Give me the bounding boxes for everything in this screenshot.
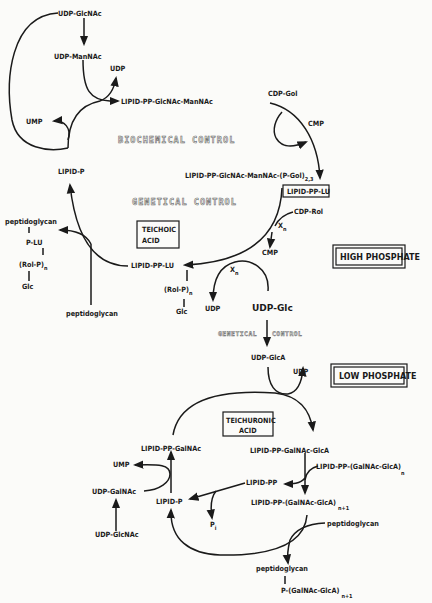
label-product-peptidoglycan-lower: peptidoglycan: [256, 564, 308, 573]
label-lipid-pp-lu: LIPID-PP-LU: [131, 261, 174, 270]
label-cdp-gol: CDP-Gol: [268, 89, 297, 98]
label-lipid-pp-lu-boxed: LIPID-PP-LU: [287, 187, 330, 196]
label-udp-1: UDP: [110, 64, 126, 73]
label-peptidoglycan-in: peptidoglycan: [66, 309, 118, 318]
arrow-lipid-pp-out: [285, 478, 305, 484]
label-ump: UMP: [26, 117, 43, 126]
label-teichuronic-2: ACID: [239, 426, 257, 435]
label-lipid-pp-glcnac-mannac: LIPID-PP-GlcNAc-ManNAc: [121, 97, 213, 106]
label-udp-lower: UDP: [293, 367, 309, 376]
label-glc: Glc: [176, 307, 188, 316]
label-udp-glca: UDP-GlcA: [251, 353, 285, 362]
label-biochemical-control: BIOCHEMICAL CONTROL: [118, 135, 235, 145]
label-control-right: CONTROL: [272, 330, 302, 338]
label-lipid-pp-polymer-n1: LIPID-PP-(GalNAc-GlcA)n+1: [251, 498, 350, 511]
label-cmp-1: CMP: [308, 119, 324, 128]
label-lipid-pp-galnac-glca: LIPID-PP-GalNAc-GlcA: [250, 446, 329, 455]
label-high-phosphate: HIGH PHOSPHATE: [340, 253, 420, 262]
label-udp-galnac: UDP-GalNAc: [92, 487, 136, 496]
label-teichuronic-1: TEICHURONIC: [226, 416, 276, 425]
label-product-glc: Glc: [22, 282, 34, 291]
arrow-udp-out: [100, 78, 116, 101]
arrow-udp-galnac-in: [144, 474, 170, 491]
label-low-phosphate: LOW PHOSPHATE: [339, 372, 416, 381]
label-lipid-pp: LIPID-PP: [246, 478, 278, 487]
diagram-canvas: UDP-GlcNAc UDP-ManNAc UDP LIPID-PP-GlcNA…: [0, 0, 432, 603]
label-cdp-rol: CDP-Rol: [294, 207, 323, 216]
arrow-ump-out-lower: [135, 465, 170, 474]
label-teichoic-1: TEICHOIC: [142, 225, 176, 234]
label-peptidoglycan-in-lower: peptidoglycan: [327, 519, 379, 528]
label-udp-mannac: UDP-ManNAc: [54, 52, 102, 61]
label-product-rol-p: (Rol-P)n: [19, 260, 48, 271]
label-lipid-pp-galnac: LIPID-PP-GalNAc: [141, 444, 201, 453]
arrow-lipid-pp-to-lipid-p: [190, 483, 245, 499]
label-lipid-p: LIPID-P: [58, 167, 85, 176]
label-udp-glc: UDP-Glc: [252, 303, 293, 313]
label-ump-lower: UMP: [113, 460, 130, 469]
label-product-p-lu: P-LU: [26, 238, 42, 247]
arrow-glca-in: [268, 367, 288, 394]
label-udp-glcnac: UDP-GlcNAc: [58, 9, 102, 18]
arrow-glcnac-loop: [9, 13, 68, 150]
arrow-pi-out: [211, 491, 216, 518]
label-lipid-p-lower: LIPID-P: [156, 497, 183, 506]
label-pi: Pi: [210, 520, 217, 531]
label-genetical-control: GENETICAL CONTROL: [132, 197, 237, 207]
label-cmp-2: CMP: [262, 248, 278, 257]
cycle-lower-left: [70, 185, 128, 266]
label-product-peptidoglycan: peptidoglycan: [5, 217, 57, 226]
label-udp-2: UDP: [205, 304, 221, 313]
cycle-upper-left: [68, 101, 100, 148]
arrow-ump-out: [54, 121, 69, 140]
label-genetical-left: GENETICAL: [218, 330, 257, 338]
label-rol-p: (Rol-P)n: [164, 285, 193, 296]
cycle-lower-bottom: [171, 510, 307, 555]
arrow-udp-glc-arc: [213, 261, 268, 300]
arrow-cmp2-out: [270, 232, 272, 247]
label-lipid-pp-pgol: LIPID-PP-GlcNAc-ManNAc-(P-Gol)2,3: [185, 171, 314, 182]
label-lipid-pp-polymer-n: LIPID-PP-(GalNAc-GlcA)n: [316, 462, 405, 476]
arrow-cmp-out: [276, 138, 306, 146]
label-x-n-2: Xn: [230, 265, 239, 276]
label-udp-glcnac-lower: UDP-GlcNAc: [95, 530, 139, 539]
label-x-n: Xn: [278, 221, 287, 232]
teichoic-teichuronic-pathway-diagram: UDP-GlcNAc UDP-ManNAc UDP LIPID-PP-GlcNA…: [0, 0, 432, 603]
lower-cycle-arrows: [116, 367, 325, 584]
arrow-cdp-gol-in: [274, 112, 282, 138]
label-product-polymer-lower: P-(GalNAc-GlcA)n+1: [281, 586, 353, 599]
label-teichoic-2: ACID: [142, 236, 160, 245]
